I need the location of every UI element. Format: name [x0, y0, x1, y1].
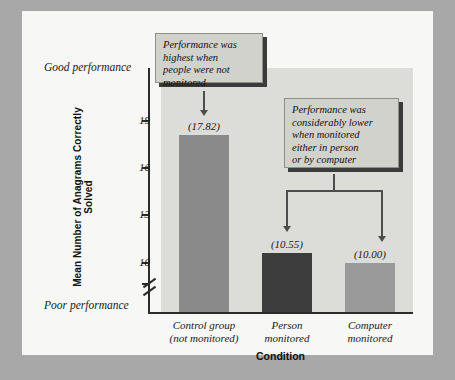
y-axis-line — [148, 68, 150, 313]
y-tick-label-wrap-13: 13 — [110, 208, 150, 220]
callout-2-arrow-head-left-icon — [283, 226, 291, 232]
x-axis-title: Condition — [148, 350, 413, 362]
callout-2-line-3: when monitored — [292, 129, 391, 142]
x-category-computer-monitored-line2: monitored — [325, 332, 415, 345]
x-category-control-group-line2: (not monitored) — [159, 332, 249, 345]
callout-2-bracket-drop-left — [286, 190, 288, 227]
bar-value-computer-monitored: (10.00) — [340, 248, 400, 260]
x-category-control-group-line1: Control group — [159, 319, 249, 332]
bar-person-monitored[interactable] — [262, 253, 312, 312]
callout-2-line-2: considerably lower — [292, 117, 391, 130]
y-tick-label-16: 16 — [122, 161, 150, 173]
callout-2-line-5: or by computer — [292, 154, 391, 167]
callout-1-arrow-head-icon — [200, 110, 208, 116]
x-category-person-monitored-line1: Person — [242, 319, 332, 332]
bar-value-person-monitored: (10.55) — [257, 238, 317, 250]
callout-2-bracket-drop-right — [381, 190, 383, 237]
bar-value-control-group: (17.82) — [174, 120, 234, 132]
y-tick-label-19: 19 — [122, 114, 150, 126]
figure-page: 19 16 13 10 Mean Number of Anagrams Corr… — [22, 11, 433, 355]
callout-2-arrow-head-right-icon — [378, 236, 386, 242]
x-category-control-group: Control group (not monitored) — [159, 319, 249, 345]
y-tick-label-wrap-19: 19 — [110, 114, 150, 126]
callout-performance-lower: Performance was considerably lower when … — [284, 98, 399, 168]
poor-performance-label: Poor performance — [44, 299, 129, 311]
callout-1-line-2: highest when — [163, 52, 255, 65]
y-tick-label-wrap-16: 16 — [110, 161, 150, 173]
callout-1-line-4: monitored — [163, 77, 255, 90]
callout-2-bracket-stem — [333, 174, 335, 191]
callout-2-line-4: either in person — [292, 142, 391, 155]
x-category-computer-monitored: Computer monitored — [325, 319, 415, 345]
y-tick-label-wrap-10: 10 — [110, 256, 150, 268]
x-category-computer-monitored-line1: Computer — [325, 319, 415, 332]
callout-1-line-1: Performance was — [163, 39, 255, 52]
x-category-person-monitored-line2: monitored — [242, 332, 332, 345]
x-axis-line — [148, 312, 413, 314]
callout-2-bracket-horizontal — [286, 190, 382, 192]
callout-1-arrow-stem — [203, 91, 205, 111]
y-tick-label-13: 13 — [122, 208, 150, 220]
y-axis-title: Mean Number of Anagrams Correctly Solved — [72, 104, 94, 290]
callout-performance-highest: Performance was highest when people were… — [155, 33, 263, 83]
bar-control-group[interactable] — [179, 135, 229, 312]
callout-1-line-3: people were not — [163, 64, 255, 77]
x-category-person-monitored: Person monitored — [242, 319, 332, 345]
bar-computer-monitored[interactable] — [345, 263, 395, 312]
good-performance-label: Good performance — [44, 61, 131, 73]
callout-2-line-1: Performance was — [292, 104, 391, 117]
y-tick-label-10: 10 — [122, 256, 150, 268]
